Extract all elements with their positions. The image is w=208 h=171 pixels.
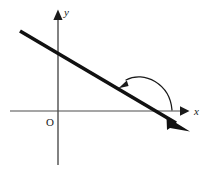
x-axis-label: x: [193, 105, 199, 117]
angle-arc-arrowhead: [119, 80, 129, 88]
x-axis-arrowhead: [180, 106, 190, 116]
coordinate-plane-diagram: y x O: [0, 0, 208, 171]
geometry-figure: y x O: [0, 0, 208, 171]
inclined-line-arrowhead: [167, 117, 191, 132]
y-axis-arrowhead: [53, 10, 62, 21]
y-axis-label: y: [63, 6, 69, 18]
inclined-line: [20, 31, 176, 123]
origin-label: O: [46, 116, 54, 128]
